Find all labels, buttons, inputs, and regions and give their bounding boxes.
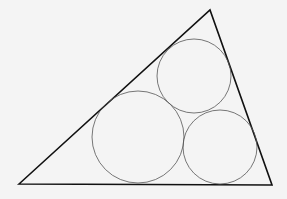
upper-circle: [157, 39, 231, 113]
lower-right-circle: [183, 110, 257, 184]
triangle: [19, 10, 272, 185]
triangle-circles-diagram: [0, 0, 287, 199]
